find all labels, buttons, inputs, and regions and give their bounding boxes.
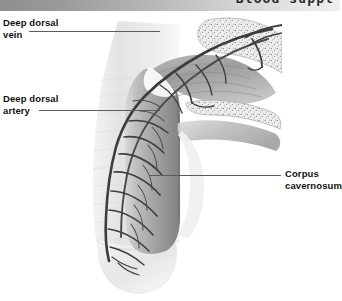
label-deep-dorsal-vein: Deep dorsal vein xyxy=(3,17,58,40)
label-deep-dorsal-vein-line1: Deep dorsal xyxy=(3,17,58,29)
label-corpus-cavernosum: Corpus cavernosum xyxy=(285,168,342,191)
figure-body xyxy=(93,18,282,293)
header-bar: Blood suppl xyxy=(0,0,340,11)
label-deep-dorsal-vein-line2: vein xyxy=(3,29,58,41)
corpus-cavernosum xyxy=(125,69,180,254)
anatomy-illustration xyxy=(0,11,340,301)
leader-line-corpus-cavernosum xyxy=(150,175,281,176)
label-corpus-cavernosum-line1: Corpus xyxy=(285,168,342,180)
corpus-spongiosum xyxy=(178,131,204,239)
page-title: Blood suppl xyxy=(236,0,334,6)
label-deep-dorsal-artery-line1: Deep dorsal xyxy=(3,93,58,105)
label-deep-dorsal-artery: Deep dorsal artery xyxy=(3,93,58,116)
label-corpus-cavernosum-line2: cavernosum xyxy=(285,180,342,192)
label-deep-dorsal-artery-line2: artery xyxy=(3,105,58,117)
